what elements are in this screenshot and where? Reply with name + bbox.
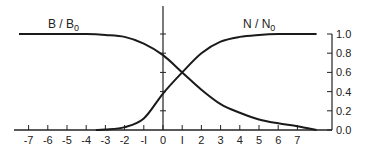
chart: -7-6-5-4-3-2-I0I234567 0.00.20.40.60.81.… [0,0,366,151]
x-tick-label: 2 [198,134,204,146]
x-tick-label: 3 [218,134,224,146]
x-tick-label: -5 [62,134,72,146]
x-tick-label: -6 [43,134,53,146]
series-curve-b-b0 [19,34,317,130]
x-tick-label: 6 [275,134,281,146]
x-tick-label: -7 [24,134,34,146]
y-tick-label: 0.4 [336,86,351,98]
x-tick-label: 4 [237,134,243,146]
x-axis: -7-6-5-4-3-2-I0I234567 [14,125,332,146]
x-tick-label: -I [140,134,147,146]
y-tick-label: 0.6 [336,66,351,78]
series-labels: B / B0N / N0 [48,17,275,33]
x-tick-label: -3 [101,134,111,146]
x-tick-label: 0 [160,134,166,146]
x-tick-label: I [181,134,184,146]
x-tick-label: -2 [120,134,130,146]
y-tick-label: 0.8 [336,47,351,59]
y-tick-label: 1.0 [336,28,351,40]
x-tick-label: 7 [294,134,300,146]
x-tick-label: 5 [256,134,262,146]
series-curve-n-n0 [96,34,317,130]
curves [19,34,317,130]
y-tick-label: 0.0 [336,124,351,136]
center-y-axis [160,6,166,130]
y-tick-label: 0.2 [336,105,351,117]
series-label: B / B0 [48,17,79,33]
x-tick-label: -4 [81,134,91,146]
series-label: N / N0 [243,17,275,33]
right-y-axis: 0.00.20.40.60.81.0 [327,28,351,136]
